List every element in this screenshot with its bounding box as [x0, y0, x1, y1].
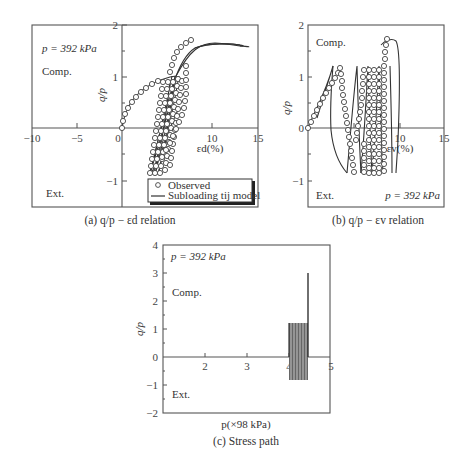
plot-b-pressure: p = 392 kPa	[384, 189, 440, 201]
plot-c-xlabel: p(×98 kPa)	[221, 418, 271, 431]
plot-b-observed	[305, 36, 389, 175]
plot-a-ext: Ext.	[46, 187, 64, 199]
plot-a-ylabel: q/p	[95, 87, 107, 102]
plot-a-y-ticks	[122, 25, 127, 181]
svg-text:0: 0	[153, 351, 159, 363]
plot-c-caption: (c) Stress path	[213, 435, 279, 448]
legend-observed-marker	[156, 183, 161, 188]
plot-b-ext: Ext.	[316, 189, 334, 201]
plot-c-pressure: p = 392 kPa	[170, 250, 226, 262]
plot-c-stress-path	[289, 273, 308, 380]
svg-text:1: 1	[299, 71, 305, 83]
plot-c-ext: Ext.	[172, 388, 190, 400]
svg-text:15: 15	[253, 132, 265, 144]
plot-a-comp: Comp.	[42, 65, 72, 77]
svg-text:−1: −1	[292, 175, 304, 187]
legend-model-label: Subloading tij model	[168, 189, 260, 201]
svg-text:0: 0	[299, 122, 305, 134]
svg-text:2: 2	[153, 295, 159, 307]
plot-c-ticks	[163, 259, 289, 399]
svg-text:0: 0	[115, 132, 121, 144]
plot-c-ylabel: q/p	[133, 321, 145, 336]
svg-text:2: 2	[299, 19, 305, 31]
plot-b-comp: Comp.	[316, 36, 346, 48]
plot-a-x-ticks	[77, 123, 212, 128]
svg-text:2: 2	[113, 19, 119, 31]
plot-c-comp: Comp.	[172, 286, 202, 298]
svg-text:3: 3	[153, 267, 159, 279]
svg-text:4: 4	[153, 239, 159, 251]
plot-b-caption: (b) q/p − εv relation	[332, 214, 424, 227]
plot-b: 10 15 2 1 0 −1 q/p εv(%) Comp. Ext. p = …	[280, 19, 450, 227]
plot-a-legend: Observed Subloading tij model	[148, 179, 260, 205]
svg-text:−5: −5	[71, 132, 83, 144]
plot-b-xlabel: εv(%)	[387, 142, 414, 155]
svg-text:2: 2	[202, 360, 208, 372]
svg-text:1: 1	[153, 323, 159, 335]
plot-a-observed	[119, 37, 193, 175]
plot-a-model-post-peak	[195, 44, 240, 48]
svg-text:−1: −1	[146, 379, 158, 391]
plot-a-pressure: p = 392 kPa	[41, 42, 97, 54]
plot-c: 2 3 4 5 4 3 2 1 0 −1 −2 q/p p(×98 kPa) p…	[133, 239, 334, 448]
svg-text:3: 3	[244, 360, 250, 372]
svg-text:5: 5	[328, 360, 334, 372]
plot-a: −10 −5 0 10 15 2 1 −1 q/p εd(%) p = 392 …	[23, 19, 264, 227]
svg-text:1: 1	[113, 71, 119, 83]
svg-text:−2: −2	[146, 407, 158, 419]
svg-text:15: 15	[439, 132, 451, 144]
plot-b-ylabel: q/p	[280, 100, 292, 115]
plot-a-caption: (a) q/p − εd relation	[84, 214, 175, 227]
plot-a-xlabel: εd(%)	[197, 142, 224, 155]
svg-text:−1: −1	[106, 175, 118, 187]
figure: −10 −5 0 10 15 2 1 −1 q/p εd(%) p = 392 …	[0, 0, 467, 466]
svg-text:−10: −10	[23, 132, 41, 144]
